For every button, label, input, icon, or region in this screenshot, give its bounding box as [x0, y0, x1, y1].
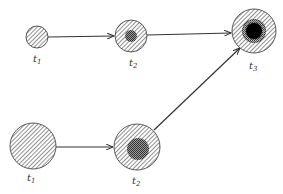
node-bottom-t1: t1	[10, 123, 56, 185]
node-top-t2: t2	[115, 20, 147, 70]
arrow-top-t1-to-top-t2	[48, 36, 114, 37]
label-t3: t3	[249, 60, 258, 73]
hatched-circle	[26, 26, 48, 48]
arrow-top-t2-to-t3	[147, 33, 231, 35]
growth-diagram: t1 t2 t3 t1 t2	[0, 0, 283, 194]
label-bottom-t2: t2	[132, 175, 141, 188]
stippled-core	[127, 138, 149, 160]
node-t3: t3	[232, 9, 276, 73]
black-core	[246, 23, 262, 39]
arrow-bottom-t2-to-t3	[154, 48, 240, 130]
label-top-t1: t1	[33, 53, 42, 66]
stippled-core	[125, 30, 137, 42]
label-bottom-t1: t1	[27, 172, 36, 185]
node-top-t1: t1	[26, 26, 48, 66]
node-bottom-t2: t2	[114, 124, 160, 188]
hatched-circle	[10, 123, 56, 169]
label-top-t2: t2	[129, 57, 138, 70]
